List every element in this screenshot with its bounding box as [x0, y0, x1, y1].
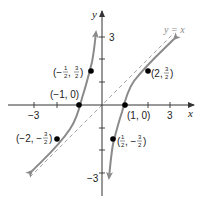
svg-text:3: 3: [44, 131, 48, 137]
svg-text:2: 2: [165, 74, 169, 80]
label-point-two: (2, 3 2 ): [151, 66, 173, 80]
svg-text:3: 3: [75, 65, 79, 71]
y-axis-label: y: [91, 8, 97, 20]
point-neg-half: [88, 68, 94, 74]
asymptote-label: y = x: [163, 24, 185, 35]
label-point-neg-two: (−2, − 3 2 ): [16, 131, 52, 145]
point-half: [110, 136, 116, 142]
svg-text:): ): [49, 133, 52, 144]
label-point-neg-one: (−1, 0): [50, 89, 79, 100]
x-tick-label-3: 3: [167, 110, 173, 121]
svg-text:): ): [80, 67, 83, 78]
svg-text:, −: , −: [125, 136, 137, 147]
x-axis-label: x: [187, 107, 193, 119]
curve-left-branch: [32, 32, 96, 171]
svg-text:(−: (−: [53, 67, 62, 78]
curve-right-branch: [109, 39, 174, 178]
point-two: [145, 68, 151, 74]
svg-text:,: ,: [68, 67, 71, 78]
point-neg-one: [76, 102, 82, 108]
svg-text:): ): [170, 68, 173, 79]
point-neg-two: [54, 136, 60, 142]
svg-text:2: 2: [138, 142, 142, 148]
x-tick-label-neg3: −3: [28, 110, 40, 121]
svg-text:): ): [143, 136, 146, 147]
graph-canvas: x y y = x −3 3 3 −3 (− 1 2 , 3 2 ) (−1, …: [0, 0, 206, 200]
svg-text:3: 3: [138, 134, 142, 140]
svg-text:(−2, −: (−2, −: [16, 133, 42, 144]
svg-text:(2,: (2,: [151, 68, 163, 79]
label-point-neg-half: (− 1 2 , 3 2 ): [53, 65, 83, 79]
label-point-half: ( 1 2 , − 3 2 ): [117, 134, 146, 148]
svg-text:3: 3: [165, 66, 169, 72]
label-point-one: (1, 0): [127, 110, 150, 121]
svg-text:2: 2: [44, 139, 48, 145]
point-one: [122, 102, 128, 108]
y-tick-label-3: 3: [109, 32, 115, 43]
y-tick-label-neg3: −3: [87, 173, 99, 184]
svg-text:2: 2: [75, 73, 79, 79]
